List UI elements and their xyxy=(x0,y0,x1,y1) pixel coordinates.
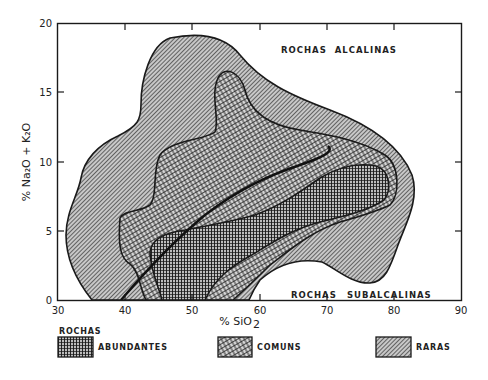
x-tick-60: 60 xyxy=(254,305,267,316)
label-rochas-alcalinas: ROCHAS ALCALINAS xyxy=(281,45,397,55)
x-tick-70: 70 xyxy=(321,305,334,316)
legend-swatch-raras xyxy=(376,337,411,357)
x-tick-40: 40 xyxy=(119,305,132,316)
label-rochas-subalcalinas-2: SUBALCALINAS xyxy=(347,290,432,300)
y-tick-20: 20 xyxy=(39,18,52,29)
x-tick-80: 80 xyxy=(388,305,401,316)
y-axis-title: % Na₂O + K₂O xyxy=(20,122,33,201)
legend: ROCHAS ABUNDANTES COMUNS RARAS xyxy=(58,327,450,357)
y-tick-10: 10 xyxy=(39,157,52,168)
y-tick-15: 15 xyxy=(39,87,52,98)
legend-swatch-abundantes xyxy=(58,337,93,357)
legend-title: ROCHAS xyxy=(59,327,101,336)
x-axis-title-subscript: 2 xyxy=(253,318,260,331)
y-tick-0: 0 xyxy=(46,295,52,306)
x-tick-30: 30 xyxy=(52,305,65,316)
y-tick-5: 5 xyxy=(46,226,52,237)
legend-label-comuns: COMUNS xyxy=(257,343,301,352)
x-tick-90: 90 xyxy=(455,305,468,316)
label-rochas-subalcalinas-1: ROCHAS xyxy=(291,290,337,300)
x-tick-50: 50 xyxy=(186,305,199,316)
legend-label-abundantes: ABUNDANTES xyxy=(98,343,168,352)
x-axis-title: % SiO xyxy=(219,315,252,328)
legend-label-raras: RARAS xyxy=(416,343,450,352)
tas-diagram: 30 40 50 60 70 80 90 0 5 10 15 20 % SiO … xyxy=(0,0,488,380)
legend-swatch-comuns xyxy=(218,337,252,357)
